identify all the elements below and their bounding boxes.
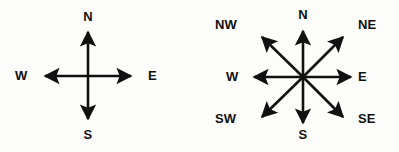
label-east: E [148, 69, 157, 82]
label-northwest: NW [215, 18, 237, 31]
arrow-southeast [303, 77, 343, 117]
label-east: E [358, 70, 367, 83]
label-southwest: SW [215, 112, 236, 125]
four-point-compass-diagram: N S E W [0, 0, 190, 152]
label-south: S [299, 128, 308, 141]
eight-point-compass-diagram: N S E W NE NW SE SW [190, 0, 399, 152]
label-northeast: NE [358, 18, 376, 31]
label-north: N [298, 8, 308, 21]
arrow-northeast [303, 37, 343, 77]
arrow-northwest [262, 37, 303, 77]
compass-diagram-figure: N S E W N S E W NE [0, 0, 399, 152]
label-west: W [226, 70, 238, 83]
label-north: N [83, 10, 93, 23]
four-point-compass-arrows [0, 0, 190, 152]
label-west: W [15, 69, 27, 82]
label-southeast: SE [358, 112, 376, 125]
label-south: S [84, 128, 93, 141]
arrow-southwest [262, 77, 303, 117]
